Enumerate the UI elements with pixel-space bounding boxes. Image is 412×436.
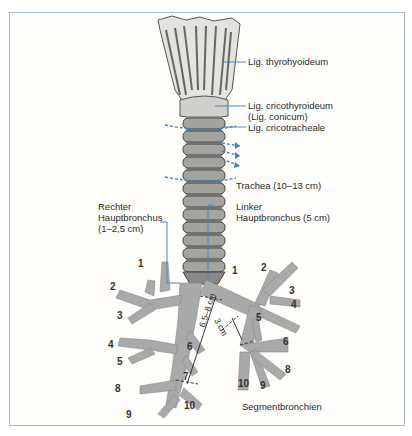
trachea-icon <box>183 116 225 284</box>
left-segment-3: 3 <box>289 285 295 296</box>
left-segment-4: 4 <box>291 299 297 310</box>
left-segment-2: 2 <box>261 262 267 273</box>
left-segment-6: 6 <box>283 336 289 347</box>
left-segment-10: 10 <box>238 378 249 389</box>
right-segment-6: 6 <box>187 341 193 352</box>
right-segment-10: 10 <box>184 400 195 411</box>
right-segment-8: 8 <box>115 383 121 394</box>
left-segment-1: 1 <box>232 265 238 276</box>
label-left-main-2: Hauptbronchus (5 cm) <box>236 212 330 224</box>
right-segment-3: 3 <box>117 310 123 321</box>
label-segmentbronchien: Segmentbronchien <box>242 401 322 413</box>
label-right-main-3: (1–2,5 cm) <box>98 223 143 235</box>
left-segment-5: 5 <box>256 312 262 323</box>
larynx-icon <box>158 16 240 118</box>
right-segment-2: 2 <box>110 281 116 292</box>
airway-illustration <box>0 0 412 436</box>
right-segment-4: 4 <box>108 339 114 350</box>
left-segment-9: 9 <box>260 380 266 391</box>
label-trachea: Trachea (10–13 cm) <box>236 180 321 192</box>
label-lig-thyrohyoideum: Lig. thyrohyoideum <box>248 56 328 68</box>
right-segment-1: 1 <box>138 258 144 269</box>
label-lig-cricotracheale: Lig. cricotracheale <box>248 122 325 134</box>
right-segment-9: 9 <box>126 409 132 420</box>
right-segment-7: 7 <box>183 371 189 382</box>
left-segment-8: 8 <box>285 364 291 375</box>
bronchial-tree-icon <box>116 262 300 418</box>
right-segment-5: 5 <box>117 356 123 367</box>
